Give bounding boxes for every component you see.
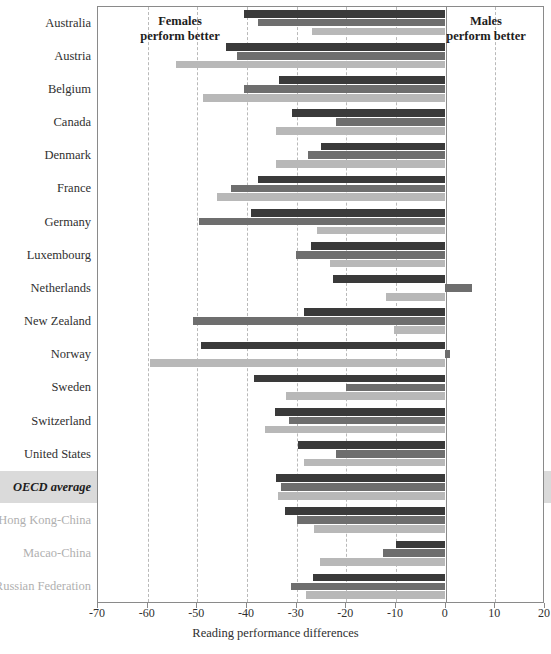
bar <box>281 483 445 491</box>
gridline--60 <box>148 7 149 602</box>
bar <box>203 94 444 102</box>
xtick-label--50: -50 <box>176 606 216 621</box>
bar <box>308 151 445 159</box>
bar <box>231 185 445 193</box>
category-label-macao-china: Macao-China <box>23 546 91 560</box>
bar <box>330 260 444 268</box>
category-label-hong-kong-china: Hong Kong-China <box>0 513 91 527</box>
bar <box>276 127 445 135</box>
category-label-germany: Germany <box>44 215 91 229</box>
bar <box>199 218 444 226</box>
category-label-united-states: United States <box>24 447 91 461</box>
category-label-oecd-average: OECD average <box>13 480 91 494</box>
bar <box>386 293 445 301</box>
reading-performance-chart: AustraliaAustriaBelgiumCanadaDenmarkFran… <box>0 0 551 654</box>
category-label-belgium: Belgium <box>48 82 91 96</box>
bar <box>304 308 445 316</box>
bar <box>201 342 444 350</box>
bar <box>296 251 445 259</box>
category-label-austria: Austria <box>54 49 91 63</box>
bar <box>313 574 445 582</box>
zero-line <box>446 7 447 602</box>
category-label-russian-federation: Russian Federation <box>0 579 91 593</box>
bar <box>298 441 445 449</box>
bar <box>258 19 445 27</box>
bar <box>276 474 445 482</box>
females-note-line2: perform better <box>110 29 250 44</box>
bar <box>244 85 445 93</box>
bar <box>396 541 445 549</box>
xtick-label-0: 0 <box>425 606 465 621</box>
bar <box>244 10 445 18</box>
category-label-sweden: Sweden <box>51 380 91 394</box>
bar <box>275 408 445 416</box>
bar <box>312 28 445 36</box>
xtick-label--20: -20 <box>325 606 365 621</box>
bar <box>258 176 445 184</box>
bar <box>150 359 445 367</box>
bar <box>226 43 445 51</box>
bar <box>333 275 444 283</box>
bar <box>265 426 445 434</box>
bar <box>346 384 444 392</box>
xtick-label--30: -30 <box>276 606 316 621</box>
bar <box>383 549 445 557</box>
bar <box>279 76 445 84</box>
males-perform-better-note: Males perform better <box>430 14 542 44</box>
bar <box>314 525 445 533</box>
xtick-label-10: 10 <box>474 606 514 621</box>
bar <box>289 417 445 425</box>
bar <box>394 326 445 334</box>
category-label-switzerland: Switzerland <box>31 414 91 428</box>
category-label-australia: Australia <box>45 16 91 30</box>
bar <box>193 317 444 325</box>
xtick-label--10: -10 <box>375 606 415 621</box>
xtick-label--40: -40 <box>226 606 266 621</box>
xtick-label-20: 20 <box>524 606 551 621</box>
category-label-norway: Norway <box>51 347 91 361</box>
bar <box>306 591 445 599</box>
category-label-netherlands: Netherlands <box>31 281 91 295</box>
category-label-denmark: Denmark <box>44 148 91 162</box>
bar <box>321 143 445 151</box>
bar <box>176 61 444 69</box>
gridline--50 <box>197 7 198 602</box>
females-note-line1: Females <box>110 14 250 29</box>
xtick-label--60: -60 <box>127 606 167 621</box>
bar <box>254 375 445 383</box>
category-label-france: France <box>57 181 91 195</box>
bar <box>445 284 473 292</box>
bar <box>445 350 450 358</box>
category-label-canada: Canada <box>54 115 91 129</box>
bar <box>278 492 445 500</box>
xtick-label--70: -70 <box>77 606 117 621</box>
bar <box>336 450 444 458</box>
bar <box>285 507 445 515</box>
bar <box>304 459 445 467</box>
bar <box>251 209 445 217</box>
category-label-new-zealand: New Zealand <box>24 314 91 328</box>
bar <box>336 118 444 126</box>
bar <box>217 193 444 201</box>
bar <box>286 392 445 400</box>
bar <box>291 583 445 591</box>
bar <box>237 52 445 60</box>
bar <box>317 227 445 235</box>
bar <box>320 558 445 566</box>
bar <box>297 516 445 524</box>
bar <box>311 242 445 250</box>
category-label-luxembourg: Luxembourg <box>27 248 91 262</box>
bar <box>276 160 445 168</box>
gridline-10 <box>495 7 496 602</box>
females-perform-better-note: Females perform better <box>110 14 250 44</box>
bar <box>292 109 445 117</box>
males-note-line1: Males <box>430 14 542 29</box>
x-axis-label: Reading performance differences <box>0 626 551 641</box>
males-note-line2: perform better <box>430 29 542 44</box>
